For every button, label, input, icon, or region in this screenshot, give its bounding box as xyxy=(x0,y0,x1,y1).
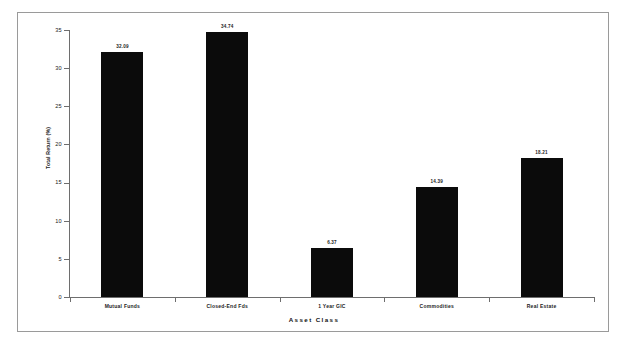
x-tick-mark xyxy=(594,297,595,302)
y-tick-label: 20 xyxy=(40,141,62,147)
category-label: Real Estate xyxy=(497,303,587,309)
bar xyxy=(521,158,563,297)
y-tick-mark xyxy=(64,68,70,69)
y-tick-label: 5 xyxy=(40,256,62,262)
bar-value-label: 32.09 xyxy=(97,44,147,49)
category-label: 1 Year GIC xyxy=(287,303,377,309)
y-tick-label: 0 xyxy=(40,294,62,300)
y-axis-line xyxy=(69,30,70,298)
category-label: Mutual Funds xyxy=(77,303,167,309)
plot-area: Total Return (%) 05101520253035 32.0934.… xyxy=(18,13,610,333)
y-tick-label: 15 xyxy=(40,179,62,185)
chart-frame: Total Return (%) 05101520253035 32.0934.… xyxy=(17,12,609,332)
y-tick-label: 30 xyxy=(40,65,62,71)
y-tick-mark xyxy=(64,259,70,260)
x-tick-mark xyxy=(175,297,176,302)
y-tick-mark xyxy=(64,221,70,222)
y-tick-mark xyxy=(64,106,70,107)
y-tick-mark xyxy=(64,30,70,31)
y-tick-label: 10 xyxy=(40,218,62,224)
category-label: Closed-End Fds xyxy=(182,303,272,309)
x-axis-title: Asset Class xyxy=(18,316,610,323)
bar xyxy=(416,187,458,297)
x-tick-mark xyxy=(280,297,281,302)
y-tick-mark xyxy=(64,144,70,145)
x-tick-mark xyxy=(70,297,71,302)
bar xyxy=(206,32,248,297)
bar-value-label: 34.74 xyxy=(202,24,252,29)
bar-value-label: 6.37 xyxy=(307,240,357,245)
bar-value-label: 14.39 xyxy=(412,179,462,184)
x-axis-line xyxy=(69,297,594,298)
y-tick-mark xyxy=(64,183,70,184)
bar xyxy=(311,248,353,297)
y-tick-label: 35 xyxy=(40,27,62,33)
x-tick-mark xyxy=(384,297,385,302)
bar-value-label: 18.21 xyxy=(517,150,567,155)
y-tick-label: 25 xyxy=(40,103,62,109)
category-label: Commodities xyxy=(392,303,482,309)
bar xyxy=(101,52,143,297)
x-tick-mark xyxy=(489,297,490,302)
